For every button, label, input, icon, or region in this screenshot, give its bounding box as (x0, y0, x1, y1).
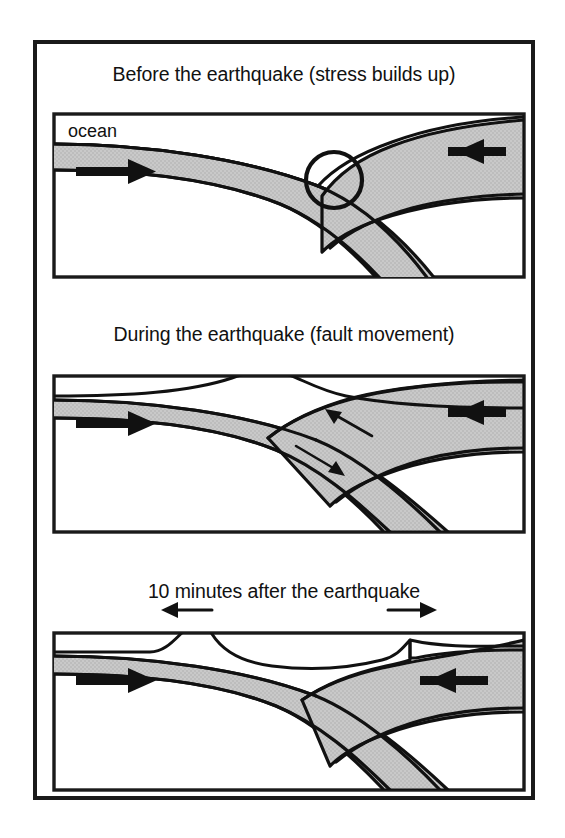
subduction-earthquake-diagram: Before the earthquake (stress builds up) (0, 0, 565, 838)
panel-before: ocean (52, 114, 524, 296)
ocean-label-before: ocean (68, 121, 117, 141)
panel-title-after: 10 minutes after the earthquake (148, 580, 420, 602)
panel-during (52, 371, 524, 532)
figure-root: Before the earthquake (stress builds up) (0, 0, 565, 838)
panel-title-during: During the earthquake (fault movement) (114, 323, 455, 345)
panel-title-before: Before the earthquake (stress builds up) (113, 63, 456, 85)
